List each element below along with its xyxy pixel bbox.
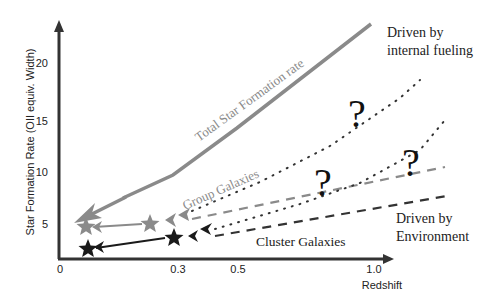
environment-label-line2: Environment xyxy=(396,229,469,244)
y-tick-15: 15 xyxy=(36,115,48,127)
cluster-star-high-icon xyxy=(165,228,184,246)
environment-label-line1: Driven by xyxy=(396,211,452,226)
group-star-high-icon xyxy=(141,214,160,232)
group-arrowhead-mid-icon xyxy=(165,213,176,227)
group-connector xyxy=(94,224,142,227)
group-galaxies-label: Group Galaxies xyxy=(180,166,261,213)
x-tick-1.0: 1.0 xyxy=(366,263,381,275)
cluster-galaxies-label: Cluster Galaxies xyxy=(256,234,346,249)
y-tick-5: 5 xyxy=(42,218,48,230)
cluster-arrowhead-end-icon xyxy=(200,223,212,235)
internal-fueling-label-line1: Driven by xyxy=(387,25,443,40)
cluster-arrowhead-mid-icon xyxy=(188,230,198,242)
x-tick-0.3: 0.3 xyxy=(170,263,185,275)
cluster-galaxies: Cluster Galaxies xyxy=(79,120,448,257)
question-mark-right: ? xyxy=(402,140,420,185)
y-ticks: 20 15 10 5 xyxy=(36,57,48,230)
question-mark-upper: ? xyxy=(348,91,366,136)
cluster-connector xyxy=(96,238,165,248)
x-ticks: 0 0.3 0.5 1.0 xyxy=(57,263,382,275)
x-tick-0.5: 0.5 xyxy=(230,263,245,275)
total-sfr-label: Total Star Formation rate xyxy=(192,55,307,144)
y-axis-arrow-icon xyxy=(54,20,64,32)
axes xyxy=(54,20,394,264)
question-mark-middle: ? xyxy=(314,160,332,205)
group-galaxies: Group Galaxies xyxy=(77,80,446,235)
x-axis-label: Redshift xyxy=(362,279,402,291)
cluster-star-low-icon xyxy=(79,239,98,257)
y-tick-20: 20 xyxy=(36,57,48,69)
y-tick-10: 10 xyxy=(36,166,48,178)
diagram-canvas: 20 15 10 5 0 0.3 0.5 1.0 Star Formation … xyxy=(0,0,498,307)
x-tick-0: 0 xyxy=(57,263,63,275)
x-axis-arrow-icon xyxy=(383,254,394,264)
y-axis-label: Star Formation Rate (OII equiv. Width) xyxy=(24,49,36,236)
internal-fueling-label-line2: internal fueling xyxy=(387,43,473,58)
